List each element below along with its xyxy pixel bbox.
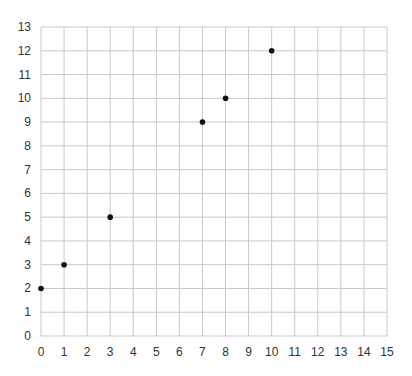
x-tick-label: 14 — [357, 345, 371, 359]
x-axis-tick-labels: 0123456789101112131415 — [38, 345, 394, 359]
y-tick-label: 7 — [24, 163, 31, 177]
y-tick-label: 3 — [24, 258, 31, 272]
y-tick-label: 0 — [24, 329, 31, 343]
x-tick-label: 3 — [107, 345, 114, 359]
x-tick-label: 9 — [245, 345, 252, 359]
x-tick-label: 10 — [265, 345, 279, 359]
y-tick-label: 5 — [24, 210, 31, 224]
x-tick-label: 5 — [153, 345, 160, 359]
y-tick-label: 2 — [24, 281, 31, 295]
y-tick-label: 10 — [18, 91, 32, 105]
y-tick-label: 9 — [24, 115, 31, 129]
data-point — [61, 262, 67, 268]
y-tick-label: 1 — [24, 305, 31, 319]
x-tick-label: 12 — [311, 345, 325, 359]
y-tick-label: 4 — [24, 234, 31, 248]
x-tick-label: 11 — [288, 345, 301, 359]
x-tick-label: 7 — [199, 345, 206, 359]
x-tick-label: 15 — [380, 345, 394, 359]
data-point — [223, 96, 229, 102]
y-tick-label: 8 — [24, 139, 31, 153]
x-tick-label: 13 — [334, 345, 348, 359]
x-tick-label: 4 — [130, 345, 137, 359]
x-tick-label: 2 — [84, 345, 91, 359]
y-tick-label: 12 — [18, 44, 32, 58]
y-tick-label: 6 — [24, 186, 31, 200]
data-point — [107, 214, 113, 220]
y-tick-label: 11 — [19, 68, 32, 82]
data-point — [269, 48, 275, 54]
scatter-chart: 012345678910111213 012345678910111213141… — [0, 0, 412, 376]
y-tick-label: 13 — [18, 20, 32, 34]
grid-lines — [41, 27, 387, 336]
data-point — [200, 119, 206, 125]
y-axis-tick-labels: 012345678910111213 — [18, 20, 32, 343]
x-tick-label: 0 — [38, 345, 45, 359]
x-tick-label: 1 — [61, 345, 68, 359]
data-point — [38, 286, 44, 292]
x-tick-label: 6 — [176, 345, 183, 359]
x-tick-label: 8 — [222, 345, 229, 359]
